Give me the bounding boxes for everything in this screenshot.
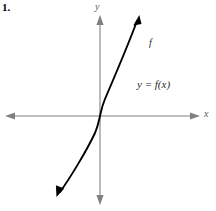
curve-equation-label: y = f(x) xyxy=(137,78,170,90)
x-axis-left-arrowhead xyxy=(5,112,15,119)
curve-function-label: f xyxy=(149,37,152,49)
problem-number-label: 1. xyxy=(2,0,10,14)
y-axis-label: y xyxy=(95,1,99,12)
curve-upper-arrowhead xyxy=(133,15,141,26)
y-axis-top-arrowhead xyxy=(96,15,103,25)
function-curve xyxy=(60,21,137,192)
x-axis-label: x xyxy=(204,108,208,119)
coordinate-plane-svg xyxy=(0,0,216,211)
x-axis-right-arrowhead xyxy=(190,112,200,119)
y-axis-bottom-arrowhead xyxy=(96,195,103,205)
graph-figure: 1. y x f y = f(x) xyxy=(0,0,216,211)
